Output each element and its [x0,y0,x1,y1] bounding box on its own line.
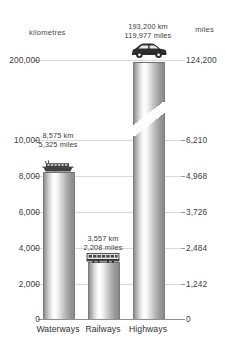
value-label-railways: 3,557 km 2,208 miles [78,234,128,252]
category-label-highways: Highways [118,324,178,334]
bar-top-cap [134,62,164,63]
value-label-km: 8,575 km [33,131,83,140]
value-label-km: 193,200 km [118,22,178,31]
bar-chart-figure: kilometres miles 200,000 10,000 8,000 6,… [0,0,225,361]
boat-icon [41,160,75,173]
bar-waterways[interactable] [43,172,75,319]
plot-area: 8,575 km 5,325 miles 3,557 km 2, [0,0,225,361]
value-label-waterways: 8,575 km 5,325 miles [33,131,83,149]
value-label-km: 3,557 km [78,234,128,243]
train-icon [86,253,120,263]
car-icon [130,42,168,59]
bar-railways[interactable] [88,262,120,319]
value-label-miles: 5,325 miles [33,140,83,149]
value-label-miles: 2,208 miles [78,243,128,252]
value-label-highways: 193,200 km 119,977 miles [118,22,178,40]
bar-highways[interactable] [133,62,165,319]
axis-break-indicator [131,102,167,136]
value-label-miles: 119,977 miles [118,31,178,40]
bar-group-railways [88,0,118,319]
